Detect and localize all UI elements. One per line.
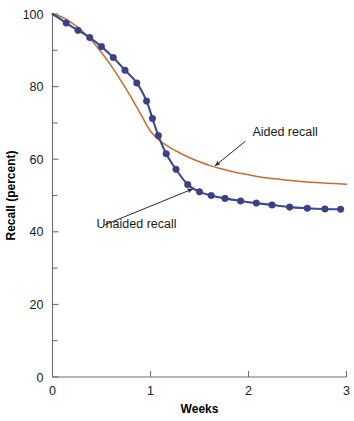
data-point [173, 166, 180, 173]
data-point [337, 206, 344, 213]
data-point [75, 27, 82, 34]
data-point [322, 206, 329, 213]
x-tick-label: 2 [245, 384, 252, 398]
data-point [143, 98, 150, 105]
series-line-unaided-recall [53, 14, 341, 209]
chart-tick-labels: 0204060801000123 [23, 8, 350, 398]
y-tick-label: 80 [30, 80, 44, 94]
y-tick-label: 40 [30, 225, 44, 239]
chart-annotation-leaders [105, 141, 245, 225]
data-point [98, 43, 105, 50]
data-point [184, 181, 191, 188]
x-tick-label: 3 [343, 384, 350, 398]
recall-over-time-line-chart: 0204060801000123 Aided recallUnaided rec… [0, 0, 354, 421]
data-point [163, 150, 170, 157]
data-point [304, 205, 311, 212]
y-tick-label: 60 [30, 153, 44, 167]
chart-annotation-labels: Aided recallUnaided recall [97, 125, 318, 232]
data-point [133, 80, 140, 87]
data-point [110, 54, 117, 61]
chart-axes [53, 14, 347, 377]
aided-recall-label: Aided recall [252, 125, 317, 139]
data-point [86, 34, 93, 41]
data-point [253, 200, 260, 207]
data-point [149, 115, 156, 122]
data-point [63, 20, 70, 27]
annotation-arrow [215, 141, 245, 165]
x-tick-label: 1 [147, 384, 154, 398]
y-tick-label: 100 [23, 8, 44, 22]
chart-series [53, 14, 347, 209]
y-tick-label: 0 [37, 371, 44, 385]
data-point [196, 189, 203, 196]
data-point [222, 195, 229, 202]
data-point [269, 202, 276, 209]
data-point [237, 198, 244, 205]
unaided-recall-label: Unaided recall [97, 217, 177, 231]
data-point [155, 132, 162, 139]
x-axis-title: Weeks [181, 402, 219, 416]
data-point [208, 192, 215, 199]
data-point [122, 67, 129, 74]
y-axis-title: Recall (percent) [4, 150, 18, 240]
axis-frame [53, 14, 347, 377]
y-tick-label: 20 [30, 298, 44, 312]
x-tick-label: 0 [49, 384, 56, 398]
data-point [286, 204, 293, 211]
chart-ticks [53, 14, 347, 377]
chart-container: 0204060801000123 Aided recallUnaided rec… [0, 0, 354, 421]
series-line-aided-recall [53, 14, 347, 184]
